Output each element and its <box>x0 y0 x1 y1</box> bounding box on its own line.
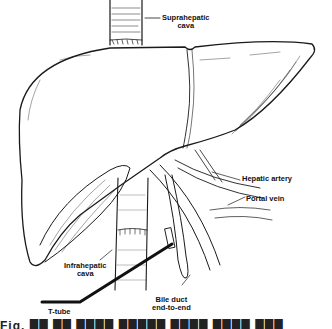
t-tube <box>42 244 172 302</box>
label-line: cava <box>162 22 210 30</box>
caption-text: Fig. ██ ██ ████ █████ ████ ████ ███ <box>0 319 332 329</box>
label-line: end-to-end <box>152 304 191 312</box>
label-line: cava <box>64 270 107 278</box>
label-suprahepatic-cava: Suprahepatic cava <box>162 14 210 30</box>
suprahepatic-cava-vessel <box>110 0 142 45</box>
liver-outline <box>19 42 314 266</box>
bile-duct <box>165 175 188 278</box>
label-infrahepatic-cava: Infrahepatic cava <box>64 262 107 278</box>
label-t-tube: T-tube <box>48 308 71 316</box>
label-hepatic-artery: Hepatic artery <box>242 175 292 183</box>
infrahepatic-cava-vessel <box>115 178 148 290</box>
label-bile-duct: Bile duct end-to-end <box>152 296 191 312</box>
figure-caption-clipped: Fig. ██ ██ ████ █████ ████ ████ ███ <box>0 319 332 329</box>
label-portal-vein: Portal vein <box>246 195 284 203</box>
liver-illustration <box>0 0 332 329</box>
